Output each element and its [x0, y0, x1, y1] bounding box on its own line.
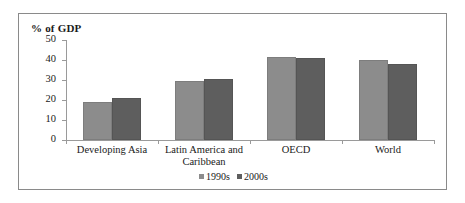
category-axis-labels: Developing AsiaLatin America andCaribbea… [66, 144, 434, 172]
y-axis-tick: 50 [62, 40, 66, 41]
x-axis-tick [434, 140, 435, 144]
category-label: Developing Asia [66, 144, 158, 156]
legend-swatch-icon [237, 174, 242, 179]
legend-label: 1990s [206, 171, 230, 182]
bar [204, 79, 233, 140]
y-axis-tick: 10 [62, 120, 66, 121]
bar-group [175, 40, 233, 140]
y-axis-tick-label: 30 [46, 73, 57, 84]
y-axis-tick-label: 10 [46, 113, 57, 124]
y-axis-tick-label: 50 [46, 33, 57, 44]
plot-area: 01020304050 [66, 40, 434, 140]
category-label-line: Caribbean [158, 156, 250, 168]
bar-group [359, 40, 417, 140]
y-axis-title: % of GDP [31, 22, 81, 34]
y-axis-tick-label: 0 [51, 133, 56, 144]
bar-group [267, 40, 325, 140]
category-label-line: OECD [250, 144, 342, 156]
bar [296, 58, 325, 140]
bar-group [83, 40, 141, 140]
bar [267, 57, 296, 140]
y-axis-tick-label: 20 [46, 93, 57, 104]
y-axis-tick-label: 40 [46, 53, 57, 64]
category-label-line: Developing Asia [66, 144, 158, 156]
category-label: OECD [250, 144, 342, 156]
y-axis-line [66, 40, 67, 140]
y-axis-tick: 20 [62, 100, 66, 101]
y-axis-tick: 30 [62, 80, 66, 81]
chart-frame: % of GDP 01020304050 Developing AsiaLati… [18, 13, 447, 190]
chart-legend: 1990s2000s [19, 171, 448, 182]
bar [83, 102, 112, 140]
legend-swatch-icon [199, 174, 204, 179]
category-label: Latin America andCaribbean [158, 144, 250, 168]
bar [175, 81, 204, 140]
bar [388, 64, 417, 140]
y-axis-tick: 40 [62, 60, 66, 61]
legend-item[interactable]: 1990s [199, 171, 230, 182]
category-label-line: Latin America and [158, 144, 250, 156]
legend-item[interactable]: 2000s [237, 171, 268, 182]
bar [359, 60, 388, 140]
legend-label: 2000s [244, 171, 268, 182]
bar [112, 98, 141, 140]
category-label: World [342, 144, 434, 156]
category-label-line: World [342, 144, 434, 156]
